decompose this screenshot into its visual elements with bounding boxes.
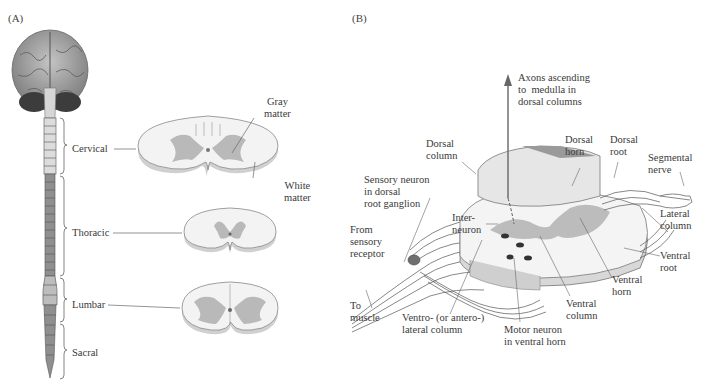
panel-b-illustration [0, 0, 718, 385]
dorsal-column-label: Dorsal column [426, 138, 458, 162]
ventral-horn-label: Ventral horn [612, 274, 642, 298]
ventral-column-label: Ventral column [566, 298, 598, 322]
ventral-root-label: Ventral root [660, 250, 690, 274]
dorsal-root-label: Dorsal root [610, 134, 638, 158]
to-muscle-label: To muscle [350, 300, 380, 324]
dorsal-horn-label: Dorsal horn [565, 134, 593, 158]
from-sensory-receptor-label: From sensory receptor [350, 224, 384, 260]
sensory-neuron-label: Sensory neuron in dorsal root ganglion [364, 174, 430, 210]
segmental-nerve-label: Segmental nerve [648, 152, 692, 176]
lateral-column-label: Lateral column [660, 208, 692, 232]
ventrolateral-column-label: Ventro- (or antero-) lateral column [402, 312, 484, 336]
axons-ascending-label: Axons ascending to medulla in dorsal col… [518, 72, 590, 108]
interneuron-label: Inter- neuron [452, 212, 481, 236]
spinal-cord-segment [460, 146, 648, 290]
dorsal-root-ganglion [408, 255, 420, 265]
motor-neuron-label: Motor neuron in ventral horn [504, 324, 566, 348]
